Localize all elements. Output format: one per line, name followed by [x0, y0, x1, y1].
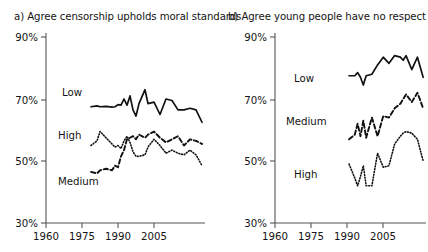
- panel-a-series-medium: [91, 132, 202, 174]
- panel-b-series-high: [349, 132, 423, 186]
- panel-b-ytick-70: 70%: [244, 95, 267, 106]
- panel-b-label-high: High: [294, 169, 317, 180]
- panel-b-plot: 90% 70% 50% 30% 1960 1975 1990 2005 Low …: [214, 0, 428, 252]
- panel-a-ytick-90: 90%: [15, 32, 38, 43]
- panel-b-xtick-1960: 1960: [262, 231, 288, 242]
- panel-b-label-low: Low: [294, 73, 314, 84]
- panel-b: b) Agree young people have no respect 90…: [214, 0, 428, 252]
- panel-b-label-medium: Medium: [286, 116, 327, 127]
- panel-a-xtick-1990: 1990: [105, 231, 131, 242]
- panel-b-ytick-30: 30%: [244, 218, 267, 229]
- panel-b-xtick-1990: 1990: [334, 231, 360, 242]
- panel-a-y-ticks: [41, 37, 46, 223]
- panel-b-xtick-1975: 1975: [298, 231, 324, 242]
- panel-b-series-low: [349, 56, 423, 85]
- panel-b-ytick-90: 90%: [244, 32, 267, 43]
- figure-two-panel-line-charts: a) Agree censorship upholds moral standa…: [0, 0, 428, 252]
- panel-a-series-low: [91, 90, 202, 123]
- panel-b-y-ticks: [270, 37, 275, 223]
- panel-b-series-medium: [349, 93, 423, 140]
- panel-a-xtick-2005: 2005: [141, 231, 167, 242]
- panel-a-plot: 90% 70% 50% 30% 1960 1975 1990 2005 Low …: [0, 0, 214, 252]
- panel-a-label-medium: Medium: [58, 176, 99, 187]
- panel-a-label-low: Low: [62, 87, 82, 98]
- panel-a-x-ticks: [46, 223, 154, 228]
- panel-a-ytick-30: 30%: [15, 218, 38, 229]
- panel-b-ytick-50: 50%: [244, 156, 267, 167]
- panel-a-ytick-50: 50%: [15, 156, 38, 167]
- panel-a-xtick-1975: 1975: [69, 231, 95, 242]
- panel-a-xtick-1960: 1960: [33, 231, 59, 242]
- panel-a-ytick-70: 70%: [15, 95, 38, 106]
- panel-a-label-high: High: [58, 130, 81, 141]
- panel-a: a) Agree censorship upholds moral standa…: [0, 0, 214, 252]
- panel-b-xtick-2005: 2005: [370, 231, 396, 242]
- panel-b-x-ticks: [275, 223, 383, 228]
